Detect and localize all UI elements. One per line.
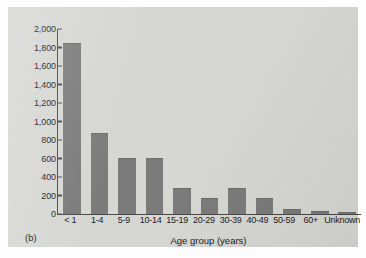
y-axis-tick: 1,400 bbox=[34, 80, 58, 89]
x-axis-tick-label: 20-29 bbox=[191, 215, 218, 225]
y-axis-tick-label: 1,200 bbox=[34, 99, 58, 108]
y-axis-tick: 200 bbox=[41, 191, 58, 200]
bar bbox=[63, 43, 81, 214]
bar bbox=[91, 133, 109, 214]
y-axis-tick: 400 bbox=[41, 173, 58, 182]
y-axis-tick: 1,800 bbox=[34, 43, 58, 52]
y-axis-tick-label: 400 bbox=[41, 173, 58, 182]
y-axis-tick-label: 600 bbox=[41, 154, 58, 163]
x-axis-tick-labels: < 11-45-910-1415-1920-2930-3940-4950-596… bbox=[57, 215, 360, 225]
bar bbox=[256, 198, 274, 214]
bar bbox=[228, 188, 246, 214]
bar-slot bbox=[58, 29, 86, 214]
bar bbox=[201, 198, 219, 214]
plot-area: 02004006008001,0001,2001,4001,6001,8002,… bbox=[57, 29, 361, 215]
x-axis-tick-label: 1-4 bbox=[84, 215, 111, 225]
y-axis-tick-label: 2,000 bbox=[34, 25, 58, 34]
y-axis-tick: 2,000 bbox=[34, 25, 58, 34]
x-axis-tick-label: 40-49 bbox=[244, 215, 271, 225]
figure-panel-b: Reported cases 02004006008001,0001,2001,… bbox=[0, 0, 366, 258]
x-axis-tick-label: < 1 bbox=[57, 215, 84, 225]
bar-slot bbox=[196, 29, 224, 214]
y-axis-tick-label: 1,600 bbox=[34, 62, 58, 71]
bar bbox=[146, 158, 164, 214]
y-axis-title: Reported cases bbox=[20, 0, 32, 29]
bar-slot bbox=[278, 29, 306, 214]
bar bbox=[283, 209, 301, 214]
bar-slot bbox=[306, 29, 334, 214]
y-axis-tick: 800 bbox=[41, 136, 58, 145]
x-axis-tick-label: 30-39 bbox=[217, 215, 244, 225]
scanned-page-panel: Reported cases 02004006008001,0001,2001,… bbox=[8, 7, 358, 247]
y-axis-tick-label: 1,800 bbox=[34, 43, 58, 52]
bar bbox=[338, 212, 356, 214]
y-axis-tick-label: 200 bbox=[41, 191, 58, 200]
bar-slot bbox=[113, 29, 141, 214]
x-axis-tick-label: 50-59 bbox=[271, 215, 298, 225]
y-axis-tick-label: 1,400 bbox=[34, 80, 58, 89]
x-axis-tick-label: 60+ bbox=[297, 215, 324, 225]
bar bbox=[311, 211, 329, 214]
y-axis-tick: 1,600 bbox=[34, 62, 58, 71]
bar bbox=[173, 188, 191, 214]
x-axis-tick-label: 15-19 bbox=[164, 215, 191, 225]
y-axis-tick: 1,200 bbox=[34, 99, 58, 108]
y-axis-tick: 600 bbox=[41, 154, 58, 163]
x-axis-title: Age group (years) bbox=[57, 235, 360, 246]
bar-slot bbox=[86, 29, 114, 214]
bar-slot bbox=[168, 29, 196, 214]
bar bbox=[118, 158, 136, 214]
y-axis-tick: 1,000 bbox=[34, 117, 58, 126]
bar-slot bbox=[251, 29, 279, 214]
bar-slot bbox=[333, 29, 361, 214]
y-axis-tick-label: 1,000 bbox=[34, 117, 58, 126]
x-axis-tick-label: 5-9 bbox=[110, 215, 137, 225]
bar-series bbox=[58, 29, 361, 214]
y-axis-tick-label: 800 bbox=[41, 136, 58, 145]
x-axis-tick-label: 10-14 bbox=[137, 215, 164, 225]
panel-letter-label: (b) bbox=[25, 232, 37, 243]
bar-slot bbox=[141, 29, 169, 214]
bar-slot bbox=[223, 29, 251, 214]
x-axis-tick-label: Unknown bbox=[324, 215, 360, 225]
